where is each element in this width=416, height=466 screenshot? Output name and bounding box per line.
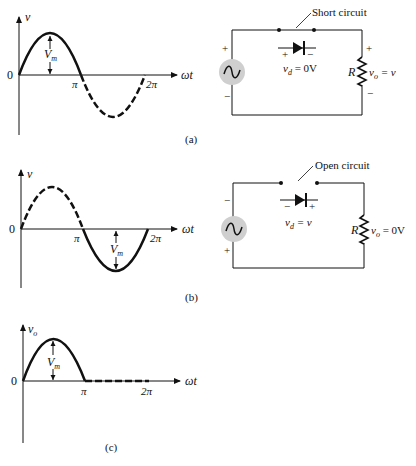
svg-text:−: − <box>307 48 313 60</box>
vo-label: vo = v <box>369 66 396 81</box>
svg-text:Vm: Vm <box>110 242 123 258</box>
resistor-label: R <box>347 65 356 79</box>
vm-label: Vm <box>44 47 57 63</box>
vd-label: vd = 0V <box>283 62 317 77</box>
svg-text:+: + <box>366 42 372 54</box>
svg-text:v: v <box>27 167 33 181</box>
negative-half-cycle-dashed <box>81 75 145 117</box>
svg-text:ωt: ωt <box>185 374 197 388</box>
panel-label-a: (a) <box>185 133 198 146</box>
svg-text:π: π <box>81 385 87 397</box>
svg-text:Vm: Vm <box>47 355 60 371</box>
svg-text:π: π <box>74 232 80 244</box>
tick-pi: π <box>72 78 78 90</box>
x-axis-label: ωt <box>181 68 193 82</box>
ac-source-icon <box>219 59 245 85</box>
svg-text:2π: 2π <box>141 385 153 397</box>
panel-label-c: (c) <box>105 441 118 454</box>
circuit-a: Short circuit + − vd = 0V + − + − R vo =… <box>219 6 396 115</box>
svg-text:+: + <box>309 200 315 212</box>
half-wave-rectifier-figure: v ωt 0 π 2π Vm (a) Short circuit + − vd … <box>0 0 416 466</box>
svg-text:−: − <box>224 194 230 206</box>
svg-text:−: − <box>367 87 373 99</box>
open-circuit-annotation: Open circuit <box>315 159 370 171</box>
panel-label-b: (b) <box>185 291 198 304</box>
origin-label: 0 <box>7 68 13 82</box>
svg-text:R: R <box>350 223 359 237</box>
circuit-b: Open circuit − + vd = v − + R vo = 0V <box>221 159 405 268</box>
tick-2pi: 2π <box>146 78 158 90</box>
positive-half-cycle-dashed <box>21 187 83 229</box>
svg-text:−: − <box>224 90 230 102</box>
graph-a: v ωt 0 π 2π Vm <box>7 10 193 135</box>
svg-text:0: 0 <box>11 374 17 388</box>
svg-text:ωt: ωt <box>182 222 194 236</box>
y-axis-label: v <box>25 10 31 24</box>
svg-text:vd = v: vd = v <box>285 216 312 231</box>
svg-text:2π: 2π <box>150 232 162 244</box>
svg-text:vo: vo <box>28 322 37 338</box>
svg-text:−: − <box>284 200 290 212</box>
svg-text:vo = 0V: vo = 0V <box>371 224 405 239</box>
svg-text:+: + <box>224 244 230 256</box>
graph-b: v ωt 0 π 2π Vm <box>9 167 194 288</box>
graph-c: vo ωt 0 π 2π Vm <box>11 322 197 443</box>
svg-text:+: + <box>222 42 228 54</box>
short-circuit-annotation: Short circuit <box>312 6 367 18</box>
svg-text:+: + <box>282 48 288 60</box>
svg-text:0: 0 <box>9 222 15 236</box>
ac-source-icon <box>221 216 247 242</box>
